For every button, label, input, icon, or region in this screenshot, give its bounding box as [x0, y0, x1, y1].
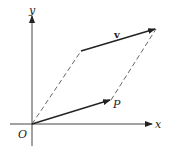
vector-op-arrow	[32, 100, 110, 124]
dashed-side-origin-to-v-start	[32, 51, 81, 124]
x-axis-label: x	[155, 118, 162, 131]
point-p-label: P	[112, 98, 121, 111]
vector-v-label: v	[113, 29, 121, 40]
vector-diagram: y x O P v	[0, 0, 170, 152]
origin-label: O	[18, 128, 27, 141]
y-axis-label: y	[28, 4, 36, 17]
